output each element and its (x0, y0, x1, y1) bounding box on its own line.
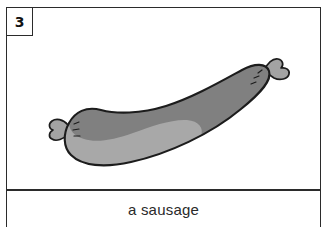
card-number-box: 3 (6, 7, 33, 36)
caption-text: a sausage (128, 201, 199, 218)
card-number: 3 (15, 15, 25, 29)
caption-row: a sausage (6, 190, 321, 227)
flashcard: 3 a sausage (0, 0, 328, 227)
sausage-drawing (6, 7, 321, 190)
